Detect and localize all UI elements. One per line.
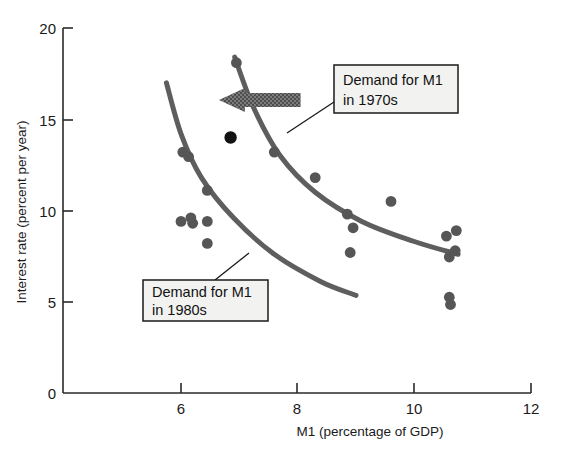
data-point: [345, 247, 356, 258]
ytick-label-15: 15: [39, 112, 56, 129]
ytick-label-5: 5: [48, 294, 56, 311]
data-point: [187, 218, 198, 229]
axes: [63, 28, 531, 393]
label-1970s-line2: in 1970s: [343, 92, 398, 108]
xtick-label-10: 10: [406, 400, 423, 417]
xtick-label-12: 12: [523, 400, 540, 417]
chart-svg: 20 15 10 5 0 6 8 10 12 M1 (percentage of…: [0, 0, 563, 458]
data-point: [445, 299, 456, 310]
leftward-shift-arrow: [219, 88, 301, 112]
xtick-label-6: 6: [177, 400, 185, 417]
shift-arrow-shape: [219, 88, 301, 112]
data-point-highlight: [224, 131, 236, 143]
ytick-label-0: 0: [48, 385, 56, 402]
data-point: [348, 222, 359, 233]
data-point: [310, 172, 321, 183]
data-point: [202, 185, 213, 196]
label-1970s-line1: Demand for M1: [343, 72, 443, 88]
data-point: [441, 231, 452, 242]
demand-curve-1980s: [166, 83, 356, 296]
data-point: [386, 196, 397, 207]
ytick-label-10: 10: [39, 203, 56, 220]
data-point: [183, 151, 194, 162]
ytick-label-20: 20: [39, 20, 56, 37]
data-point: [176, 216, 187, 227]
label-1980s-line2: in 1980s: [152, 302, 207, 318]
xtick-labels: 6 8 10 12: [177, 400, 540, 417]
xtick-label-8: 8: [293, 400, 301, 417]
data-point: [269, 147, 280, 158]
ytick-labels: 20 15 10 5 0: [39, 20, 56, 402]
label-1980s[interactable]: Demand for M1 in 1980s: [143, 280, 268, 321]
data-point: [202, 238, 213, 249]
y-axis-title: Interest rate (percent per year): [14, 120, 29, 303]
data-point: [231, 57, 242, 68]
data-point: [451, 225, 462, 236]
x-axis-title: M1 (percentage of GDP): [296, 424, 443, 439]
leader-line-1980s: [215, 253, 249, 280]
chart-figure: 20 15 10 5 0 6 8 10 12 M1 (percentage of…: [0, 0, 563, 458]
data-point: [202, 216, 213, 227]
data-point: [342, 209, 353, 220]
label-1980s-line1: Demand for M1: [152, 284, 252, 300]
label-1970s[interactable]: Demand for M1 in 1970s: [334, 65, 458, 113]
data-point: [444, 252, 455, 263]
